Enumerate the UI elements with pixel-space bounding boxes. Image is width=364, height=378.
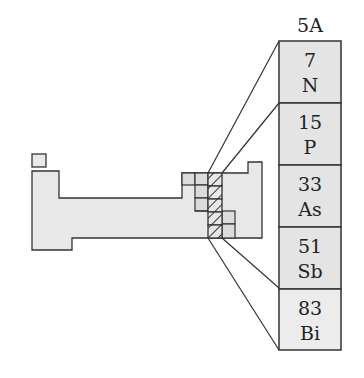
atomic-number: 7 [304, 49, 316, 71]
atomic-number: 83 [298, 297, 322, 319]
atomic-number: 51 [298, 235, 322, 257]
group-5a-highlight-column [208, 173, 222, 238]
hydrogen-cell [32, 154, 46, 167]
element-symbol: P [304, 136, 317, 158]
p-block-grid-right [222, 211, 235, 238]
atomic-number: 15 [298, 111, 322, 133]
element-symbol: N [302, 74, 319, 96]
element-symbol: As [297, 198, 321, 220]
atomic-number: 33 [298, 173, 322, 195]
element-symbol: Sb [297, 260, 322, 282]
element-symbol: Bi [300, 322, 320, 344]
periodic-table-diagram: 7 N 15 P 33 As 51 Sb 83 Bi [0, 0, 364, 378]
